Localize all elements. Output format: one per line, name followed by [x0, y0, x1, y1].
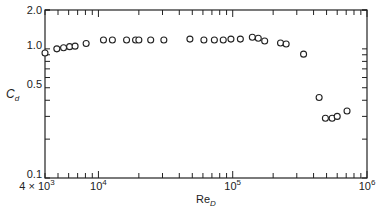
y-axis-label-subscript: d	[15, 94, 20, 103]
data-point	[262, 38, 268, 44]
drag-coefficient-chart: 2.01.00.50.1 4 × 103104105106 Cd ReD	[0, 0, 378, 209]
data-point	[72, 43, 78, 49]
x-tick-label: 105	[224, 178, 241, 192]
data-point	[334, 113, 340, 119]
data-point	[316, 95, 322, 101]
data-point	[255, 35, 261, 41]
data-point	[109, 37, 115, 43]
x-tick-label: 106	[359, 178, 376, 192]
data-point	[211, 37, 217, 43]
y-tick-labels: 2.01.00.50.1	[27, 4, 42, 180]
x-tick-label: 4 × 103	[19, 178, 55, 192]
data-point	[301, 51, 307, 57]
data-point	[136, 37, 142, 43]
y-tick-label: 0.1	[27, 168, 42, 180]
data-point	[237, 36, 243, 42]
y-tick-label: 0.5	[27, 78, 42, 90]
data-point	[228, 36, 234, 42]
data-point	[201, 37, 207, 43]
data-point	[148, 37, 154, 43]
x-axis-label-subscript: D	[210, 199, 216, 208]
data-point	[161, 37, 167, 43]
x-axis-label: ReD	[196, 193, 216, 208]
data-point	[283, 41, 289, 47]
data-point	[220, 37, 226, 43]
data-points	[42, 34, 350, 121]
data-point	[42, 50, 48, 56]
data-point	[344, 108, 350, 114]
y-tick-label: 1.0	[27, 39, 42, 51]
data-point	[249, 34, 255, 40]
data-point	[187, 36, 193, 42]
data-point	[124, 37, 130, 43]
y-tick-label: 2.0	[27, 4, 42, 16]
data-point	[61, 45, 67, 51]
data-point	[54, 46, 60, 52]
data-point	[278, 40, 284, 46]
data-point	[322, 115, 328, 121]
data-point	[83, 41, 89, 47]
x-tick-labels: 4 × 103104105106	[19, 178, 376, 192]
x-tick-label: 104	[90, 178, 107, 192]
y-axis-label: Cd	[6, 87, 20, 103]
data-point	[100, 37, 106, 43]
